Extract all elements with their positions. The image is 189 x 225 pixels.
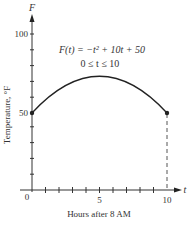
x-tick-label-10: 10 xyxy=(163,195,173,205)
domain-label: 0 ≤ t ≤ 10 xyxy=(81,58,120,69)
y-tick-label-100: 100 xyxy=(15,29,29,39)
x-axis-symbol: t xyxy=(184,184,187,195)
endpoint-end xyxy=(165,111,169,115)
x-tick-label-0: 0 xyxy=(25,192,30,202)
y-axis-arrow-icon xyxy=(30,14,35,22)
function-curve xyxy=(32,76,167,113)
x-axis-arrow-icon xyxy=(174,188,182,193)
y-axis-label: Temperature, °F xyxy=(2,86,12,144)
chart: F t 50 100 0 5 10 F(t) = −t² + 10t + xyxy=(0,0,189,225)
formula-label: F(t) = −t² + 10t + 50 xyxy=(58,44,145,56)
x-axis-label: Hours after 8 AM xyxy=(67,209,131,219)
y-axis-symbol: F xyxy=(28,2,36,13)
y-tick-label-50: 50 xyxy=(19,108,29,118)
endpoint-start xyxy=(30,111,34,115)
x-tick-label-5: 5 xyxy=(97,195,102,205)
